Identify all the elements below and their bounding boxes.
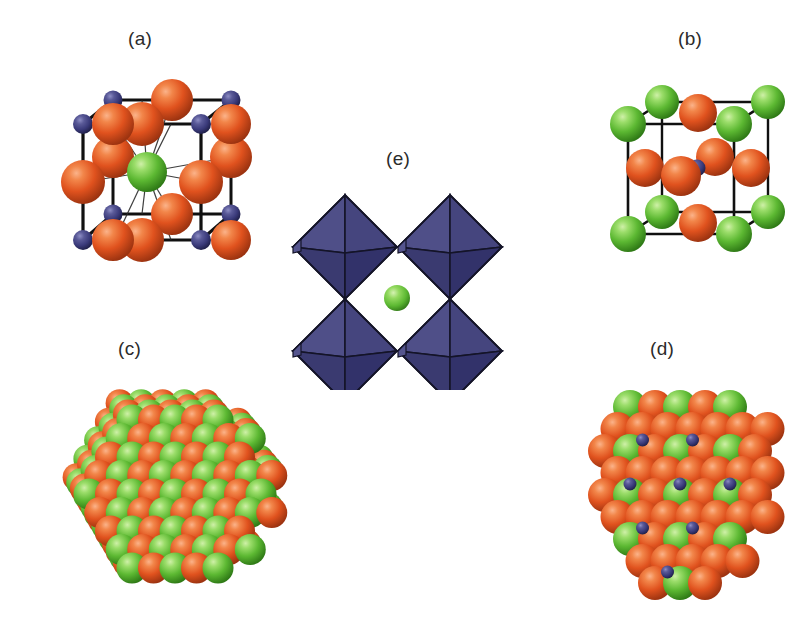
panel-d-structure [565,390,795,605]
blue-atom [661,566,674,579]
blue-atom [674,478,687,491]
blue-atom [636,522,649,535]
panel-label-d: (d) [650,338,674,360]
octahedron-bottom-left [293,299,397,390]
green-cavity-atom [384,285,410,311]
green-center-atom [127,152,167,192]
cluster-c-atoms [63,389,288,583]
octahedron-bottom-right [398,299,502,390]
blue-atom [724,478,737,491]
octahedron-top-right [398,195,502,299]
panel-label-a: (a) [128,28,152,50]
panel-a-structure [55,62,285,277]
octahedron-top-left [293,195,397,299]
panel-label-c: (c) [118,338,141,360]
blue-atom [686,434,699,447]
green-atom [203,553,234,584]
panel-e-structure [285,185,515,390]
blue-atom [636,434,649,447]
panel-label-b: (b) [678,28,702,50]
orange-atom [688,566,722,600]
orange-atom [256,497,287,528]
blue-atom [686,522,699,535]
figure-canvas: (a) (b) (c) (d) (e) [0,0,795,626]
orange-atom [726,544,760,578]
blue-atom [624,478,637,491]
slab-d-atoms [588,390,785,600]
green-atom [235,534,266,565]
panel-label-e: (e) [386,148,410,170]
panel-b-structure [600,72,795,267]
panel-c-structure [55,382,295,612]
orange-atom [751,500,785,534]
